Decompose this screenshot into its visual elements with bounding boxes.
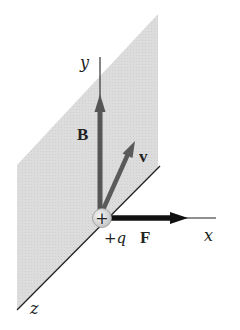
charge-label: +q <box>104 229 126 247</box>
force-label: F <box>140 228 150 247</box>
magnetic-force-diagram: + y B v +q F x z <box>0 0 240 330</box>
positive-charge: + <box>93 209 112 228</box>
x-axis-label: x <box>204 226 213 245</box>
y-axis-label: y <box>79 53 90 72</box>
magnetic-field-label: B <box>77 125 88 144</box>
charge-sign: + <box>95 209 108 228</box>
z-axis-label: z <box>29 299 39 318</box>
force-vector <box>110 212 188 224</box>
velocity-label: v <box>139 147 148 166</box>
